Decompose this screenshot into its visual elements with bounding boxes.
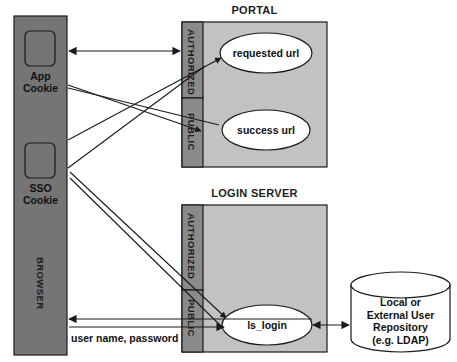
ls-login-label: ls_login — [222, 319, 312, 332]
sso-cookie-label: SSO Cookie — [14, 182, 67, 206]
login-server-title: LOGIN SERVER — [182, 187, 327, 199]
edge-app-cookie-to-portal-public — [68, 85, 201, 131]
diagram-canvas: PORTAL LOGIN SERVER BROWSER App Cookie S… — [0, 0, 457, 362]
requested-url-label: requested url — [220, 47, 312, 60]
repository-cylinder-top — [351, 272, 450, 298]
app-cookie-label: App Cookie — [14, 70, 67, 94]
login-server-authorized-label: AUTHORIZED — [186, 213, 197, 279]
portal-authorized-label: AUTHORIZED — [186, 29, 197, 95]
portal-title: PORTAL — [182, 4, 327, 16]
portal-public-label: PUBLIC — [186, 113, 197, 151]
login-server-public-label: PUBLIC — [186, 299, 197, 337]
sso-cookie-box — [25, 143, 55, 178]
repository-label: Local or External User Repository (e.g. … — [351, 296, 450, 346]
browser-label: BROWSER — [35, 257, 46, 309]
credentials-edge-label: user name, password — [71, 332, 178, 344]
success-url-label: success url — [222, 124, 310, 137]
app-cookie-box — [25, 31, 55, 66]
